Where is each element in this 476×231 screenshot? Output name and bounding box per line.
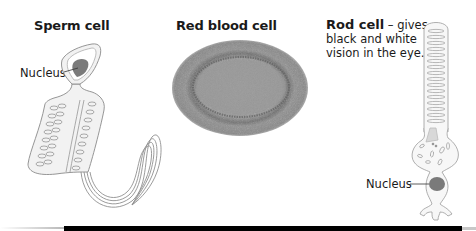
bottom-bar-end: [462, 227, 476, 230]
red-blood-cell-drawing: [172, 40, 308, 136]
sperm-cell-drawing: [28, 44, 161, 207]
bottom-bar: [64, 226, 462, 231]
bottom-bar-fade: [0, 227, 64, 229]
cells-illustration: [0, 0, 476, 231]
rod-cell-drawing: [410, 23, 458, 221]
